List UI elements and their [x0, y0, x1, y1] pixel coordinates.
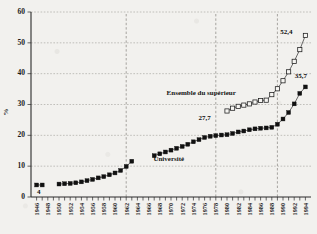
y-tick-label-40: 40 — [18, 68, 26, 77]
data-point-0-1987 — [264, 126, 268, 130]
x-tick-label-1970: 1970 — [167, 203, 174, 215]
series-label-universite: Université — [153, 155, 184, 163]
y-tick-label-10: 10 — [18, 161, 26, 170]
data-point-0-1956 — [91, 177, 95, 181]
data-point-0-1947 — [40, 183, 44, 187]
x-tick-label-1974: 1974 — [190, 203, 197, 215]
data-point-0-1970 — [169, 148, 173, 152]
x-tick-label-1966: 1966 — [145, 203, 152, 215]
x-tick-label-1968: 1968 — [156, 203, 163, 215]
data-point-0-1976 — [203, 136, 207, 140]
data-point-0-1978 — [214, 134, 218, 138]
data-point-0-1982 — [236, 130, 240, 134]
data-point-1-1980 — [225, 109, 229, 113]
x-tick-label-1990: 1990 — [279, 203, 286, 215]
data-point-0-1959 — [107, 173, 111, 177]
x-tick-label-1964: 1964 — [134, 203, 141, 215]
x-tick-label-1972: 1972 — [179, 203, 186, 215]
x-tick-label-1946: 1946 — [33, 203, 40, 215]
y-axis-title: % — [2, 109, 10, 116]
x-tick-label-1988: 1988 — [268, 203, 275, 215]
data-point-1-1990 — [281, 79, 285, 83]
data-point-1-1993 — [298, 48, 302, 52]
data-point-0-1950 — [57, 182, 61, 186]
x-tick-label-1954: 1954 — [78, 203, 85, 215]
data-point-1-1983 — [242, 103, 246, 107]
data-point-0-1946 — [35, 183, 39, 187]
xtick-labels-group: 1946194819501952195419561958196019621964… — [33, 203, 309, 215]
data-point-0-1951 — [63, 182, 67, 186]
x-tick-label-1956: 1956 — [89, 203, 96, 215]
data-point-0-1983 — [242, 129, 246, 133]
x-tick-label-1980: 1980 — [223, 203, 230, 215]
y-tick-label-20: 20 — [18, 130, 26, 139]
series-label-superieur: Ensemble du supérieur — [167, 89, 236, 97]
x-tick-label-1992: 1992 — [291, 203, 298, 215]
data-point-1-1989 — [275, 87, 279, 91]
y-tick-label-30: 30 — [18, 99, 26, 108]
data-point-0-1960 — [113, 171, 117, 175]
annotation-max-superieur: 52,4 — [280, 28, 293, 36]
data-point-1-1985 — [253, 100, 257, 104]
data-point-0-1973 — [186, 142, 190, 146]
data-point-0-1979 — [219, 133, 223, 137]
x-tick-label-1982: 1982 — [235, 203, 242, 215]
data-point-0-1993 — [298, 91, 302, 95]
data-point-0-1972 — [180, 144, 184, 148]
series-group — [35, 33, 308, 187]
data-point-1-1994 — [303, 33, 307, 37]
data-point-1-1992 — [292, 59, 296, 63]
data-point-0-1958 — [102, 175, 106, 179]
x-tick-label-1986: 1986 — [257, 203, 264, 215]
data-point-0-1989 — [275, 122, 279, 126]
chart-figure: 0102030405060 19461948195019521954195619… — [0, 0, 317, 234]
data-point-0-1971 — [175, 146, 179, 150]
yaxis-title-group: % — [2, 109, 10, 116]
data-point-0-1962 — [124, 165, 128, 169]
x-tick-label-1976: 1976 — [201, 203, 208, 215]
annotation-start-value: 4 — [37, 188, 41, 196]
data-point-0-1975 — [197, 138, 201, 142]
data-point-0-1994 — [303, 85, 307, 89]
data-point-0-1981 — [231, 132, 235, 136]
data-point-1-1982 — [236, 104, 240, 108]
data-point-0-1988 — [270, 125, 274, 129]
y-tick-label-60: 60 — [18, 7, 26, 16]
x-tick-label-1960: 1960 — [111, 203, 118, 215]
data-point-0-1984 — [247, 128, 251, 132]
series-line-0 — [59, 161, 132, 184]
data-point-0-1963 — [130, 159, 134, 163]
y-tick-label-0: 0 — [21, 192, 25, 201]
annotation-1978-value: 27,7 — [198, 114, 211, 122]
reflines-group — [126, 14, 277, 197]
x-tick-label-1950: 1950 — [55, 203, 62, 215]
data-point-0-1980 — [225, 133, 229, 137]
x-tick-label-1994: 1994 — [302, 203, 309, 215]
data-point-0-1986 — [259, 126, 263, 130]
x-tick-label-1984: 1984 — [246, 203, 253, 215]
data-point-0-1961 — [119, 169, 123, 173]
data-point-1-1984 — [247, 102, 251, 106]
enrollment-rate-line-chart: 0102030405060 19461948195019521954195619… — [0, 0, 317, 234]
data-point-1-1988 — [270, 93, 274, 97]
data-point-0-1952 — [68, 181, 72, 185]
x-tick-label-1958: 1958 — [100, 203, 107, 215]
annotations-group: 427,752,435,7Ensemble du supérieurUniver… — [37, 28, 307, 195]
data-point-1-1981 — [231, 106, 235, 110]
data-point-0-1953 — [74, 181, 78, 185]
x-tick-label-1962: 1962 — [123, 203, 130, 215]
data-point-0-1954 — [79, 180, 83, 184]
x-tick-label-1948: 1948 — [44, 203, 51, 215]
data-point-0-1969 — [163, 150, 167, 154]
annotation-max-universite: 35,7 — [295, 72, 308, 80]
x-tick-label-1952: 1952 — [67, 203, 74, 215]
y-tick-label-50: 50 — [18, 38, 26, 47]
data-point-0-1977 — [208, 134, 212, 138]
data-point-0-1990 — [281, 117, 285, 121]
data-point-1-1986 — [259, 98, 263, 102]
ytick-labels-group: 0102030405060 — [18, 7, 26, 201]
data-point-1-1987 — [264, 98, 268, 102]
data-point-0-1991 — [287, 111, 291, 115]
data-point-0-1985 — [253, 127, 257, 131]
data-point-0-1957 — [96, 176, 100, 180]
